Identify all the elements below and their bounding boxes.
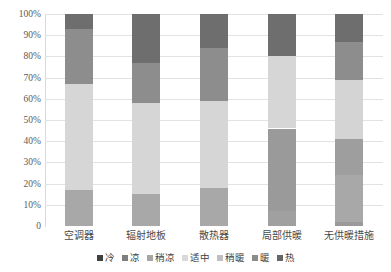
bar-segment[interactable] bbox=[268, 56, 296, 128]
legend-item[interactable]: 热 bbox=[277, 253, 295, 263]
legend-swatch-icon bbox=[217, 255, 223, 261]
bar-segment[interactable] bbox=[65, 29, 93, 84]
y-axis-tick-label: 40% bbox=[24, 136, 41, 146]
bar-segment[interactable] bbox=[335, 222, 363, 226]
legend-swatch-icon bbox=[97, 255, 103, 261]
bar-series-container bbox=[45, 14, 383, 226]
bar-segment[interactable] bbox=[200, 14, 228, 48]
bar-segment[interactable] bbox=[65, 190, 93, 226]
legend-item[interactable]: 稍暖 bbox=[217, 253, 245, 263]
y-axis-tick-label: 100% bbox=[19, 9, 41, 19]
bar-segment[interactable] bbox=[200, 48, 228, 101]
y-axis-tick-label: 90% bbox=[24, 30, 41, 40]
bar-segment[interactable] bbox=[268, 129, 296, 212]
bar-segment[interactable] bbox=[335, 80, 363, 139]
y-axis-tick-label: 80% bbox=[24, 51, 41, 61]
x-axis-tick-label: 辐射地板 bbox=[113, 229, 181, 243]
plot-area bbox=[45, 14, 383, 226]
legend-label: 凉 bbox=[130, 253, 140, 263]
legend-label: 稍凉 bbox=[155, 253, 175, 263]
legend-label: 适中 bbox=[190, 253, 210, 263]
legend-label: 稍暖 bbox=[225, 253, 245, 263]
legend-item[interactable]: 冷 bbox=[97, 253, 115, 263]
bar-segment[interactable] bbox=[268, 211, 296, 226]
stacked-bar-chart: 010%20%30%40%50%60%70%80%90%100% 空调器辐射地板… bbox=[0, 0, 391, 272]
x-axis-labels: 空调器辐射地板散热器局部供暖无供暖措施 bbox=[45, 229, 383, 245]
bar-segment[interactable] bbox=[132, 194, 160, 226]
bar-segment[interactable] bbox=[335, 175, 363, 222]
bar-segment[interactable] bbox=[200, 101, 228, 188]
legend-swatch-icon bbox=[122, 255, 128, 261]
bar-segment[interactable] bbox=[65, 84, 93, 190]
legend-swatch-icon bbox=[277, 255, 283, 261]
legend-label: 冷 bbox=[105, 253, 115, 263]
bar-segment[interactable] bbox=[335, 139, 363, 175]
bar-column[interactable] bbox=[335, 14, 363, 226]
legend-label: 暖 bbox=[260, 253, 270, 263]
x-axis-tick-label: 散热器 bbox=[180, 229, 248, 243]
x-axis-tick-label: 空调器 bbox=[45, 229, 113, 243]
legend-label: 热 bbox=[285, 253, 295, 263]
legend-swatch-icon bbox=[182, 255, 188, 261]
legend-item[interactable]: 适中 bbox=[182, 253, 210, 263]
y-axis-tick-label: 60% bbox=[24, 94, 41, 104]
y-axis-tick-label: 0 bbox=[36, 221, 41, 231]
y-axis-tick-label: 50% bbox=[24, 115, 41, 125]
legend-swatch-icon bbox=[252, 255, 258, 261]
bar-segment[interactable] bbox=[132, 63, 160, 103]
bar-segment[interactable] bbox=[200, 188, 228, 226]
bar-segment[interactable] bbox=[335, 42, 363, 80]
y-axis-tick-label: 70% bbox=[24, 73, 41, 83]
y-axis-labels: 010%20%30%40%50%60%70%80%90%100% bbox=[0, 0, 41, 240]
bar-segment[interactable] bbox=[132, 14, 160, 63]
legend-item[interactable]: 稍凉 bbox=[147, 253, 175, 263]
bar-column[interactable] bbox=[132, 14, 160, 226]
bar-column[interactable] bbox=[200, 14, 228, 226]
bar-segment[interactable] bbox=[335, 14, 363, 42]
legend-item[interactable]: 凉 bbox=[122, 253, 140, 263]
x-axis-tick-label: 局部供暖 bbox=[248, 229, 316, 243]
legend-swatch-icon bbox=[147, 255, 153, 261]
y-axis-tick-label: 30% bbox=[24, 157, 41, 167]
bar-column[interactable] bbox=[65, 14, 93, 226]
bar-segment[interactable] bbox=[65, 14, 93, 29]
x-axis-tick-label: 无供暖措施 bbox=[315, 229, 383, 243]
bar-segment[interactable] bbox=[268, 14, 296, 56]
bar-column[interactable] bbox=[268, 14, 296, 226]
chart-legend: 冷凉稍凉适中稍暖暖热 bbox=[0, 250, 391, 266]
bar-segment[interactable] bbox=[132, 103, 160, 194]
y-axis-tick-label: 20% bbox=[24, 179, 41, 189]
y-axis-tick-label: 10% bbox=[24, 200, 41, 210]
legend-item[interactable]: 暖 bbox=[252, 253, 270, 263]
